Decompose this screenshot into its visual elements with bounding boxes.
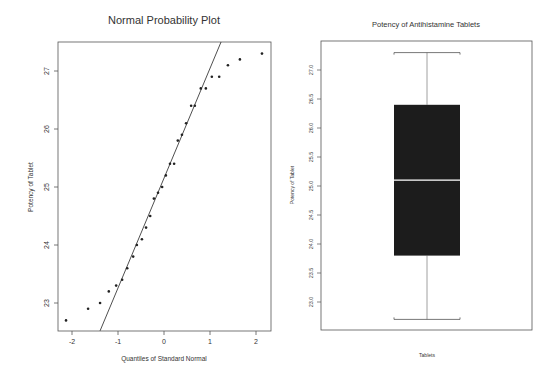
data-point [132, 255, 135, 258]
data-point [157, 192, 160, 195]
y-tick-label: 25.0 [308, 181, 314, 192]
y-tick-label: 26.5 [308, 94, 314, 105]
y-tick-label: 24.0 [308, 239, 314, 250]
data-point [108, 290, 111, 293]
data-point [169, 163, 172, 166]
x-tick-label: -2 [69, 338, 75, 345]
x-tick-label: 0 [162, 338, 166, 345]
data-point [190, 105, 193, 108]
qq-reference-line [100, 42, 221, 331]
qq-y-axis-label: Potency of Tablet [27, 162, 35, 212]
y-tick-label: 27 [43, 67, 50, 75]
x-tick-label: -1 [115, 338, 121, 345]
data-point [153, 197, 156, 200]
data-point [99, 302, 102, 305]
qq-plot: Normal Probability Plot -2-1012 23242526… [27, 14, 271, 363]
boxplot-y-axis-label: Potency of Tablet [289, 165, 295, 204]
qq-plot-frame [58, 42, 271, 331]
y-tick-label: 24 [43, 241, 50, 249]
data-point [115, 284, 118, 287]
qq-plot-title: Normal Probability Plot [108, 14, 220, 26]
data-point [211, 76, 214, 79]
data-point [65, 319, 68, 322]
data-point [177, 139, 180, 142]
y-tick-label: 25 [43, 183, 50, 191]
data-point [218, 76, 221, 79]
data-point [161, 186, 164, 189]
qq-points [65, 52, 264, 321]
boxplot-y-axis: 23.023.524.024.525.025.526.026.527.0 [308, 65, 321, 308]
y-tick-label: 24.5 [308, 210, 314, 221]
data-point [227, 64, 230, 67]
data-point [261, 52, 264, 55]
figure: Normal Probability Plot -2-1012 23242526… [0, 0, 559, 379]
data-point [126, 267, 129, 270]
y-tick-label: 23.5 [308, 268, 314, 279]
qq-x-axis: -2-1012 [69, 331, 258, 345]
data-point [185, 122, 188, 125]
data-point [141, 238, 144, 241]
data-point [173, 163, 176, 166]
qq-y-axis: 2324252627 [43, 67, 58, 307]
y-tick-label: 26.0 [308, 123, 314, 134]
data-point [165, 174, 168, 177]
y-tick-label: 27.0 [308, 65, 314, 76]
data-point [136, 244, 139, 247]
data-point [87, 308, 90, 311]
boxplot: Potency of Antihistamine Tablets 23.023.… [289, 20, 532, 358]
y-tick-label: 23.0 [308, 297, 314, 308]
data-point [194, 105, 197, 108]
data-point [121, 279, 124, 282]
boxplot-x-axis-label: Tablets [419, 352, 435, 358]
data-point [149, 215, 152, 218]
data-point [181, 134, 184, 137]
y-tick-label: 26 [43, 125, 50, 133]
y-tick-label: 25.5 [308, 152, 314, 163]
boxplot-title: Potency of Antihistamine Tablets [372, 20, 480, 29]
x-tick-label: 1 [208, 338, 212, 345]
data-point [205, 87, 208, 90]
x-tick-label: 2 [254, 338, 258, 345]
data-point [239, 58, 242, 61]
qq-x-axis-label: Quantiles of Standard Normal [121, 355, 207, 363]
boxplot-box [394, 53, 460, 320]
data-point [145, 226, 148, 229]
data-point [200, 87, 203, 90]
y-tick-label: 23 [43, 299, 50, 307]
